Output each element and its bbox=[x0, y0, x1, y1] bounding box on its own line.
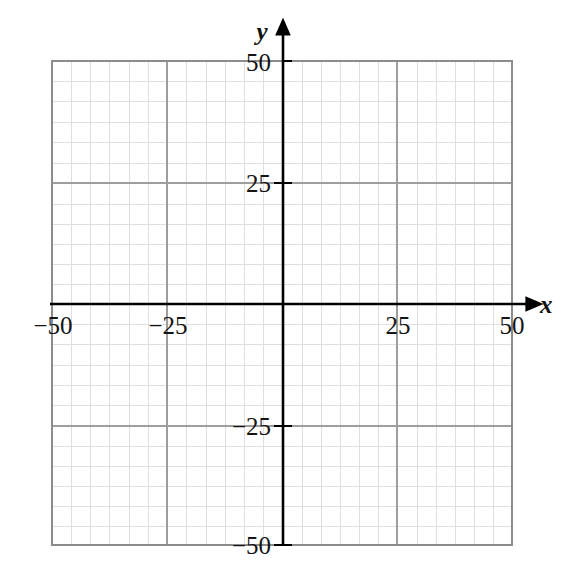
coordinate-grid-svg: x y −50 −25 25 50 50 25 −25 −50 bbox=[0, 0, 581, 578]
x-tick-label-neg25: −25 bbox=[148, 312, 187, 339]
x-axis-name-label: x bbox=[539, 291, 553, 318]
y-tick-label-pos50: 50 bbox=[246, 49, 271, 76]
x-tick-label-pos25: 25 bbox=[386, 312, 411, 339]
coordinate-plane-figure: x y −50 −25 25 50 50 25 −25 −50 bbox=[0, 0, 581, 578]
x-tick-label-pos50: 50 bbox=[500, 312, 525, 339]
y-tick-label-pos25: 25 bbox=[246, 170, 271, 197]
y-tick-label-neg50: −50 bbox=[232, 532, 271, 559]
y-axis-name-label: y bbox=[253, 18, 268, 45]
x-tick-label-neg50: −50 bbox=[33, 312, 72, 339]
y-tick-label-neg25: −25 bbox=[232, 413, 271, 440]
